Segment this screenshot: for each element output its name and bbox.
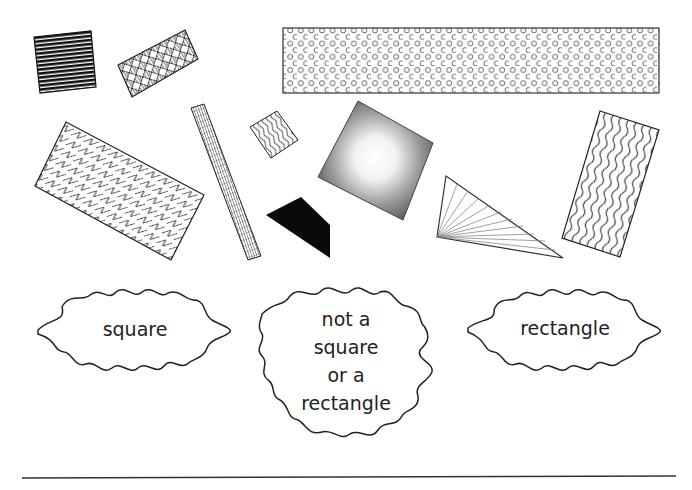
fan-triangle-shape[interactable] [437,176,563,258]
shaded-square-shape[interactable] [318,101,433,220]
square-label: square [103,318,168,340]
wavy-rectangle-shape[interactable] [562,111,659,257]
neither-label-line-2: square [314,336,379,358]
patterned-rectangle-shape[interactable] [118,30,198,97]
rectangle-label: rectangle [520,317,610,339]
striped-square-shape[interactable] [34,31,96,93]
black-trapezoid-shape[interactable] [266,197,330,258]
footer-divider [22,476,676,478]
dotted-rectangle-shape[interactable] [283,28,659,93]
small-wavy-square-shape[interactable] [250,111,298,158]
worksheet-canvas: square not a square or a rectangle recta… [0,0,692,490]
zigzag-rectangle-shape[interactable] [35,122,204,260]
neither-label-line-1: not a [322,308,371,330]
neither-label-cloud[interactable]: not a square or a rectangle [259,288,432,437]
rectangle-label-cloud[interactable]: rectangle [468,290,660,371]
square-label-cloud[interactable]: square [38,290,230,371]
neither-label-line-3: or a [327,364,364,386]
neither-label-line-4: rectangle [301,392,391,414]
